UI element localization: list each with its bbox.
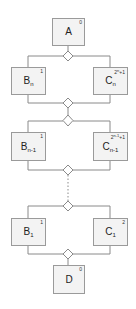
node-label: Bn-1 [12,141,45,152]
node-b-n-1[interactable]: Bn-1 1 [11,132,46,161]
node-label: D [54,275,84,285]
node-number: 2n-1+1 [111,134,125,140]
node-c-n[interactable]: Cn 2n+1 [93,67,128,95]
node-number: 0 [79,20,82,25]
node-a[interactable]: A 0 [52,18,85,46]
gateway-diamond [63,98,73,108]
gateway-diamond [63,115,73,126]
node-number: 1 [40,134,43,139]
node-number: 1 [40,69,43,74]
node-label: C1 [94,227,127,238]
node-number: 2n+1 [114,69,125,75]
node-number: 1 [40,220,43,225]
node-label: B1 [12,227,45,238]
node-label: Cn [94,76,127,87]
gateway-diamond [63,201,73,211]
node-b-n[interactable]: Bn 1 [11,67,46,95]
node-number: 0 [79,267,82,272]
node-number: 2 [122,220,125,225]
node-d[interactable]: D 0 [53,265,85,294]
node-c-1[interactable]: C1 2 [93,218,128,246]
gateway-diamond [63,249,73,259]
node-label: Cn-1 [94,141,127,152]
gateway-diamond [63,165,73,175]
node-label: Bn [12,76,45,87]
gateway-diamond [63,51,73,61]
node-b-1[interactable]: B1 1 [11,218,46,246]
node-c-n-1[interactable]: Cn-1 2n-1+1 [93,132,128,161]
node-label: A [53,27,84,37]
